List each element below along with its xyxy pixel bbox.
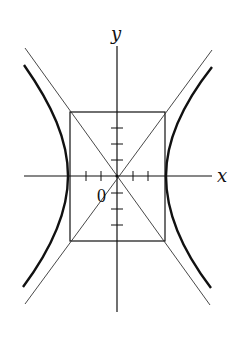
origin-label: 0 [97, 186, 106, 206]
hyperbola-right-branch [166, 67, 212, 288]
y-axis-label: y [110, 23, 122, 44]
asymptote-positive-slope [25, 50, 212, 304]
origin-point [115, 174, 118, 177]
x-axis-label: x [217, 165, 227, 186]
hyperbola-diagram: y x 0 [0, 0, 240, 338]
